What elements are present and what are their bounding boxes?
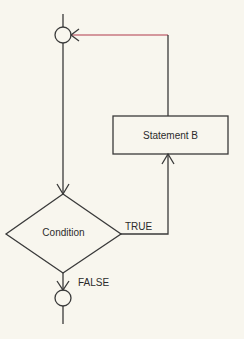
statement-b-label: Statement B [143,130,198,141]
entry-junction [55,27,71,43]
true-label: TRUE [125,222,152,232]
exit-junction [55,290,71,306]
condition-label: Condition [6,227,121,238]
false-label: FALSE [78,278,109,288]
statement-b-node: Statement B [113,116,228,154]
flowchart-lines [0,0,244,339]
flowchart-canvas: Statement B Condition TRUE FALSE [0,0,244,339]
